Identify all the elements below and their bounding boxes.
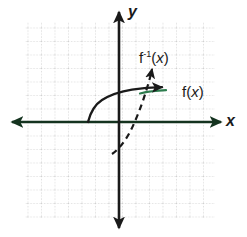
f-label-close: ) [199,83,204,100]
f-label-variable: x [191,83,199,100]
f-inverse-label-close: ) [164,49,169,66]
graph-figure: y x f-1(x) f(x) [0,0,247,237]
y-axis-label: y [128,4,137,20]
x-axis-label: x [226,113,235,129]
f-inverse-label-variable: x [156,49,164,66]
f-label: f(x) [182,84,204,99]
f-inverse-label-exponent: -1 [143,49,151,59]
f-label-base: f( [182,83,191,100]
graph-canvas [0,0,247,237]
f-inverse-label: f-1(x) [139,50,169,65]
